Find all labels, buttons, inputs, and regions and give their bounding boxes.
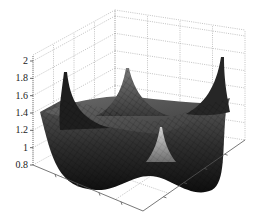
- z-tick-label: 1.2: [6, 125, 28, 135]
- surface-mesh: [40, 57, 230, 192]
- surface-plot: 0.811.21.41.61.82: [0, 0, 256, 223]
- z-tick-label: 1: [6, 143, 28, 153]
- z-tick-label: 1.6: [6, 91, 28, 101]
- plot-canvas: [0, 0, 256, 223]
- z-tick-label: 1.8: [6, 73, 28, 83]
- z-tick-label: 0.8: [6, 160, 28, 170]
- z-tick-label: 2: [6, 56, 28, 66]
- z-tick-label: 1.4: [6, 108, 28, 118]
- axes-lines: [30, 56, 33, 166]
